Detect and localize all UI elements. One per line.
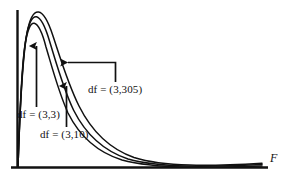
annotation-label-df-3-10: df = (3,10) (40, 128, 89, 140)
f-distribution-figure: df = (3,3) df = (3,10) df = (3,305) F (0, 0, 288, 178)
annotation-label-df-3-305: df = (3,305) (88, 83, 142, 95)
x-axis-label: F (270, 152, 277, 164)
annotation-label-df-3-3: df = (3,3) (17, 108, 60, 120)
curve-df-3-3 (18, 23, 262, 167)
pointer-arrow-df-3-305 (68, 63, 116, 83)
plot-area (0, 0, 288, 178)
